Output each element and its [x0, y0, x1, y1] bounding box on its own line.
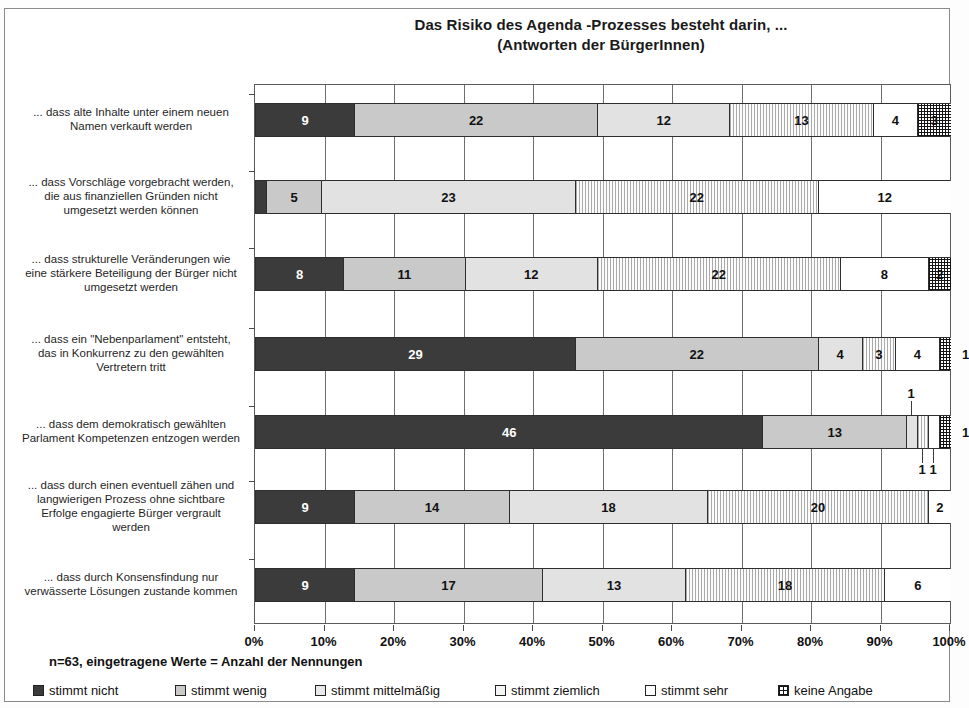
bar-segment[interactable]: 1: [940, 338, 951, 370]
category-label: ... dass Vorschläge vorgebracht werden,d…: [15, 175, 247, 217]
category-label: ... dass ein "Nebenparlament" entsteht,d…: [15, 332, 247, 374]
segment-value-label: 22: [690, 348, 704, 361]
legend-label: stimmt ziemlich: [511, 683, 600, 698]
plot-area: 9221213431523221281112228229224341461311…: [254, 84, 951, 624]
bar-segment[interactable]: 29: [256, 338, 576, 370]
category-tick: [249, 171, 255, 172]
category-label-line: langwierigen Prozess ohne sichtbare: [15, 492, 247, 506]
bar-segment[interactable]: 14: [355, 491, 509, 523]
bar-segment[interactable]: 12: [598, 104, 730, 136]
legend-item[interactable]: keine Angabe: [778, 683, 873, 698]
bar-segment[interactable]: 8: [841, 258, 929, 290]
category-label-line: ... dass dem demokratisch gewählten: [15, 417, 247, 431]
axis-tick-label: 60%: [658, 634, 684, 649]
stacked-bar[interactable]: 91713186: [255, 568, 950, 602]
bar-segment[interactable]: 17: [355, 569, 543, 601]
category-label-line: werden: [15, 520, 247, 534]
bar-segment[interactable]: 3: [863, 338, 896, 370]
segment-value-label: 9: [302, 579, 309, 592]
segment-value-label: 13: [794, 114, 808, 127]
bar-segment[interactable]: 4: [896, 338, 940, 370]
axis-tick: [254, 625, 255, 631]
axis-tick-label: 90%: [866, 634, 892, 649]
stacked-bar[interactable]: 91418202: [255, 490, 950, 524]
bar-segment[interactable]: 23: [322, 181, 576, 213]
bar-segment[interactable]: 12: [819, 181, 951, 213]
segment-value-label: 17: [441, 579, 455, 592]
bar-segment[interactable]: 18: [510, 491, 709, 523]
category-label-line: ... dass alte Inhalte unter einem neuen: [15, 105, 247, 119]
category-label: ... dass durch Konsensfindung nurverwäss…: [15, 570, 247, 598]
legend-swatch-icon: [315, 685, 326, 696]
bar-segment[interactable]: 22: [598, 258, 841, 290]
segment-value-label: 29: [408, 348, 422, 361]
stacked-bar[interactable]: 811122282: [255, 257, 950, 291]
callout-value-row5-ziemlich: 1: [918, 463, 925, 476]
bar-segment[interactable]: 12: [466, 258, 598, 290]
stacked-bar[interactable]: 29224341: [255, 337, 950, 371]
bar-segment[interactable]: 1: [918, 416, 929, 448]
segment-value-label: 8: [881, 268, 888, 281]
bar-segment[interactable]: 1: [256, 181, 267, 213]
chart-frame: Das Risiko des Agenda -Prozesses besteht…: [4, 8, 950, 702]
category-label: ... dass dem demokratisch gewähltenParla…: [15, 417, 247, 445]
bar-segment[interactable]: 4: [819, 338, 863, 370]
segment-value-label: 9: [302, 114, 309, 127]
legend-swatch-icon: [33, 685, 44, 696]
bar-segment[interactable]: 18: [686, 569, 885, 601]
legend-item[interactable]: stimmt wenig: [175, 683, 267, 698]
chart-title-line-1: Das Risiko des Agenda -Prozesses besteht…: [415, 16, 788, 33]
legend-item[interactable]: stimmt mittelmäßig: [315, 683, 440, 698]
bar-segment[interactable]: 22: [576, 181, 819, 213]
category-label: ... dass alte Inhalte unter einem neuenN…: [15, 105, 247, 133]
bar-row: 91418202: [255, 490, 950, 524]
bar-segment[interactable]: 4: [874, 104, 918, 136]
bar-segment[interactable]: 22: [576, 338, 819, 370]
category-label: ... dass durch einen eventuell zähen und…: [15, 478, 247, 534]
bar-segment[interactable]: 1: [929, 416, 940, 448]
axis-tick: [324, 625, 325, 631]
bar-segment[interactable]: 9: [256, 104, 355, 136]
segment-value-label: 11: [398, 268, 412, 281]
legend-swatch-icon: [645, 685, 656, 696]
bar-segment[interactable]: 46: [256, 416, 763, 448]
segment-value-label: 4: [892, 114, 899, 127]
axis-tick-label: 70%: [727, 634, 753, 649]
leader-line: [933, 449, 934, 463]
segment-value-label: 18: [601, 501, 615, 514]
bar-segment[interactable]: 13: [543, 569, 686, 601]
category-tick: [249, 94, 255, 95]
bar-segment[interactable]: 9: [256, 491, 355, 523]
bar-segment[interactable]: 6: [885, 569, 951, 601]
category-label-line: die aus finanziellen Gründen nicht: [15, 189, 247, 203]
stacked-bar[interactable]: 922121343: [255, 103, 950, 137]
bar-row: 91713186: [255, 568, 950, 602]
bar-segment[interactable]: 8: [256, 258, 344, 290]
bar-segment[interactable]: 1: [940, 416, 951, 448]
bar-segment[interactable]: 11: [344, 258, 465, 290]
stacked-bar[interactable]: 15232212: [255, 180, 950, 214]
bar-segment[interactable]: 20: [708, 491, 929, 523]
legend-item[interactable]: stimmt ziemlich: [495, 683, 600, 698]
bar-segment[interactable]: 5: [267, 181, 322, 213]
bar-segment[interactable]: 22: [355, 104, 598, 136]
axis-tick-label: 50%: [588, 634, 614, 649]
axis-tick: [810, 625, 811, 631]
axis-tick: [741, 625, 742, 631]
bar-segment[interactable]: 1: [907, 416, 918, 448]
legend-item[interactable]: stimmt sehr: [645, 683, 728, 698]
bar-segment[interactable]: 2: [929, 258, 951, 290]
bar-segment[interactable]: 13: [763, 416, 906, 448]
bar-segment[interactable]: 13: [730, 104, 873, 136]
segment-value-label: 13: [607, 579, 621, 592]
bar-row: 922121343: [255, 103, 950, 137]
bar-segment[interactable]: 9: [256, 569, 355, 601]
bar-segment[interactable]: 3: [918, 104, 951, 136]
bar-segment[interactable]: 2: [929, 491, 951, 523]
legend-item[interactable]: stimmt nicht: [33, 683, 118, 698]
segment-value-label: 3: [875, 348, 882, 361]
category-tick: [249, 248, 255, 249]
stacked-bar[interactable]: 46131111: [255, 415, 950, 449]
category-tick: [249, 481, 255, 482]
axis-tick: [671, 625, 672, 631]
